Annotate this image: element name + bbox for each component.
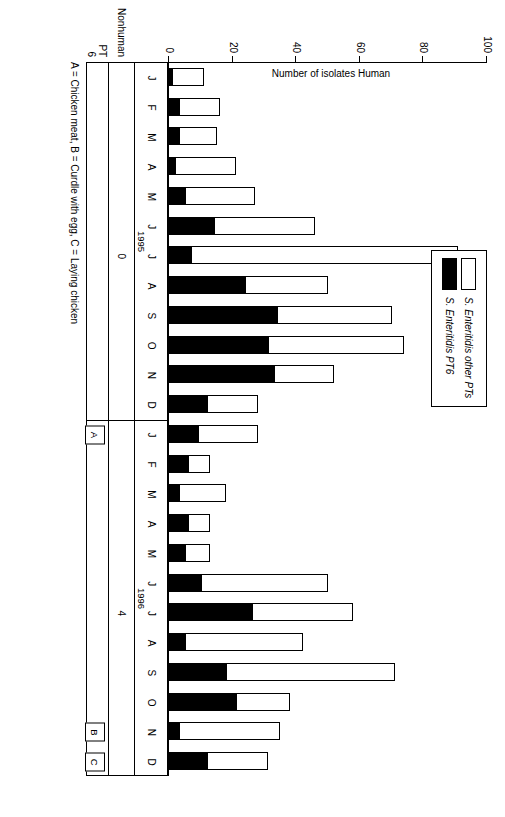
month-label: S — [135, 301, 168, 331]
month-label: F — [135, 450, 168, 480]
y-tick-label: 80 — [418, 42, 429, 53]
legend-label-pt6: S. Enteritidis PT6 — [444, 297, 455, 374]
month-label: A — [135, 152, 168, 182]
month-label: M — [135, 480, 168, 510]
bar-segment-pt6 — [169, 752, 207, 770]
bar-segment-other-pts — [201, 574, 328, 592]
bar-segment-pt6 — [169, 484, 179, 502]
month-label: N — [135, 361, 168, 391]
bar-segment-other-pts — [207, 752, 267, 770]
nonhuman-row: Nonhuman 04 — [108, 62, 134, 776]
y-tick-label: 100 — [482, 36, 493, 53]
bar-segment-other-pts — [198, 425, 258, 443]
y-tick-label: 60 — [354, 42, 365, 53]
bar-segment-other-pts — [252, 603, 354, 621]
event-marker-c: C — [85, 753, 105, 772]
bar-segment-other-pts — [172, 68, 204, 86]
month-label: M — [135, 182, 168, 212]
bar-segment-other-pts — [179, 722, 281, 740]
pt6-row-label: PT 6 — [87, 44, 108, 63]
month-label: D — [135, 390, 168, 420]
nonhuman-count: 4 — [116, 611, 127, 617]
legend-swatch-pt6 — [442, 258, 457, 290]
nonhuman-count: 0 — [116, 254, 127, 260]
month-label: D — [135, 747, 168, 777]
bar-segment-pt6 — [169, 187, 185, 205]
event-marker-a: A — [85, 425, 105, 444]
year-divider — [135, 420, 168, 421]
month-label: J — [135, 420, 168, 450]
bar-segment-pt6 — [169, 603, 252, 621]
year-label: 1996 — [136, 588, 147, 609]
bar-segment-pt6 — [169, 246, 191, 264]
month-label: M — [135, 123, 168, 153]
figure-caption: A = Chicken meat, B = Curdle with egg, C… — [69, 62, 80, 324]
bar-segment-pt6 — [169, 455, 188, 473]
bar-segment-pt6 — [169, 693, 236, 711]
bar-segment-pt6 — [169, 395, 207, 413]
bar-segment-other-pts — [185, 544, 210, 562]
year-divider — [87, 420, 108, 421]
month-label: J — [135, 63, 168, 93]
legend-item-pt6: S. Enteritidis PT6 — [442, 258, 457, 398]
month-label: M — [135, 539, 168, 569]
bar-segment-other-pts — [236, 693, 290, 711]
bar-segment-other-pts — [207, 395, 258, 413]
bar-segment-pt6 — [169, 633, 185, 651]
bar-segment-pt6 — [169, 365, 274, 383]
year-label: 1995 — [136, 231, 147, 252]
month-table: JFMAMJJASONDJFMAMJJASOND19951996 Nonhuma… — [86, 62, 168, 776]
plot-area — [169, 62, 487, 776]
bar-segment-other-pts — [175, 157, 235, 175]
month-label: S — [135, 658, 168, 688]
bar-segment-pt6 — [169, 336, 268, 354]
bar-segment-other-pts — [245, 276, 328, 294]
bar-segment-other-pts — [191, 246, 458, 264]
bar-segment-other-pts — [179, 127, 217, 145]
month-label: O — [135, 331, 168, 361]
month-label: A — [135, 509, 168, 539]
legend: S. Enteritidis other PTs S. Enteritidis … — [431, 250, 487, 407]
bar-segment-pt6 — [169, 722, 179, 740]
month-row: JFMAMJJASONDJFMAMJJASOND19951996 — [134, 62, 168, 776]
y-tick-label: 0 — [164, 47, 175, 53]
bar-segment-other-pts — [185, 633, 303, 651]
bar-segment-pt6 — [169, 306, 277, 324]
month-label: F — [135, 93, 168, 123]
chart-figure: 020406080100 Number of isolates Human S.… — [0, 0, 505, 817]
bar-segment-pt6 — [169, 514, 188, 532]
nonhuman-row-label: Nonhuman — [109, 8, 134, 63]
bar-segment-other-pts — [274, 365, 334, 383]
figure-upright-canvas: 020406080100 Number of isolates Human S.… — [0, 0, 505, 817]
bar-segment-other-pts — [268, 336, 405, 354]
month-label: A — [135, 271, 168, 301]
bar-segment-pt6 — [169, 544, 185, 562]
bar-segment-pt6 — [169, 663, 226, 681]
bar-segment-pt6 — [169, 98, 179, 116]
legend-label-other-pts: S. Enteritidis other PTs — [463, 297, 474, 398]
legend-item-other: S. Enteritidis other PTs — [461, 258, 476, 398]
bar-segment-other-pts — [179, 484, 227, 502]
bar-segment-other-pts — [179, 98, 220, 116]
bar-segment-other-pts — [188, 455, 210, 473]
bar-segment-other-pts — [185, 187, 255, 205]
bar-segment-pt6 — [169, 425, 198, 443]
legend-swatch-other-pts — [461, 258, 476, 290]
y-tick-label: 20 — [227, 42, 238, 53]
month-label: A — [135, 628, 168, 658]
bar-segment-other-pts — [188, 514, 210, 532]
rotated-figure-wrapper: 020406080100 Number of isolates Human S.… — [0, 0, 505, 817]
event-marker-b: B — [85, 723, 105, 742]
month-label: N — [135, 718, 168, 748]
bar-segment-pt6 — [169, 127, 179, 145]
month-label: O — [135, 688, 168, 718]
bar-segment-other-pts — [226, 663, 395, 681]
bar-segment-pt6 — [169, 574, 201, 592]
bar-segment-pt6 — [169, 276, 245, 294]
y-tick-label: 40 — [291, 42, 302, 53]
year-divider — [109, 420, 134, 421]
bar-segment-pt6 — [169, 217, 214, 235]
pt6-row: PT 6 ABC — [86, 62, 108, 776]
bar-segment-other-pts — [277, 306, 391, 324]
bar-segment-other-pts — [214, 217, 316, 235]
